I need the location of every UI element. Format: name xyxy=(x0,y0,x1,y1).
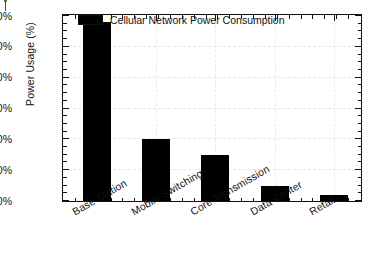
y-axis-minor-tick xyxy=(63,131,67,132)
x-axis-minor-tick xyxy=(75,198,76,202)
y-axis-minor-tick-right xyxy=(358,146,362,147)
y-axis-minor-tick xyxy=(63,146,67,147)
x-axis-minor-tick-top xyxy=(324,15,325,19)
x-axis-tick-top xyxy=(334,15,335,21)
y-axis-tick-label: 0% xyxy=(0,195,12,207)
x-axis-minor-tick xyxy=(289,198,290,202)
x-axis-minor-tick-top xyxy=(75,15,76,19)
y-axis-tick-label: 30% xyxy=(0,102,12,114)
y-axis-minor-tick-right xyxy=(358,30,362,31)
gridline-vertical xyxy=(334,15,335,201)
y-axis-minor-tick xyxy=(63,61,67,62)
gridline-vertical xyxy=(275,15,276,201)
y-axis-tick-right xyxy=(355,138,361,139)
y-axis-tick-right xyxy=(355,169,361,170)
legend-swatch-icon xyxy=(78,15,103,25)
y-axis-minor-tick-right xyxy=(358,92,362,93)
x-axis-minor-tick-top xyxy=(301,15,302,19)
chart-legend: Cellular Network Power Consumption xyxy=(78,14,285,26)
x-axis-minor-tick-top xyxy=(336,15,337,19)
y-axis-tick-label: 10% xyxy=(0,164,12,176)
y-axis-tick xyxy=(63,169,69,170)
y-axis-minor-tick-right xyxy=(358,177,362,178)
x-axis-minor-tick xyxy=(194,198,195,202)
y-axis-tick-right xyxy=(355,46,361,47)
y-axis-title: Power Usage (%) xyxy=(24,0,36,139)
y-axis-minor-tick xyxy=(63,123,67,124)
bar xyxy=(83,22,111,201)
y-axis-tick-label: 60% xyxy=(0,10,12,22)
x-axis-minor-tick xyxy=(170,198,171,202)
y-axis-tick-right xyxy=(355,15,361,16)
x-axis-minor-tick-top xyxy=(348,15,349,19)
y-axis-minor-tick xyxy=(63,84,67,85)
x-axis-minor-tick-top xyxy=(312,15,313,19)
y-axis-tick-label: 20% xyxy=(0,133,12,145)
y-axis-tick xyxy=(63,77,69,78)
x-axis-minor-tick xyxy=(312,198,313,202)
plot-inner xyxy=(63,15,361,201)
y-axis-minor-tick-right xyxy=(358,69,362,70)
y-axis-tick xyxy=(63,108,69,109)
legend-label: Cellular Network Power Consumption xyxy=(110,14,285,26)
y-axis-tick-right xyxy=(355,77,361,78)
y-axis-minor-tick xyxy=(63,154,67,155)
x-axis-minor-tick xyxy=(336,198,337,202)
x-axis-minor-tick xyxy=(241,198,242,202)
y-axis-minor-tick-right xyxy=(358,161,362,162)
y-axis-minor-tick xyxy=(63,177,67,178)
y-axis-minor-tick xyxy=(63,30,67,31)
x-axis-minor-tick-top xyxy=(289,15,290,19)
x-axis-minor-tick xyxy=(253,198,254,202)
x-axis-minor-tick xyxy=(111,198,112,202)
y-axis-minor-tick xyxy=(63,115,67,116)
y-axis-tick xyxy=(63,200,69,201)
y-axis-tick xyxy=(63,138,69,139)
x-axis-minor-tick xyxy=(182,198,183,202)
y-axis-minor-tick-right xyxy=(358,100,362,101)
x-axis-minor-tick xyxy=(348,198,349,202)
y-axis-minor-tick-right xyxy=(358,123,362,124)
y-axis-minor-tick-right xyxy=(358,38,362,39)
y-axis-minor-tick-right xyxy=(358,185,362,186)
y-axis-tick-right xyxy=(355,200,361,201)
y-axis-minor-tick xyxy=(63,38,67,39)
y-axis-minor-tick xyxy=(63,185,67,186)
y-axis-minor-tick-right xyxy=(358,131,362,132)
y-axis-minor-tick-right xyxy=(358,54,362,55)
y-axis-minor-tick-right xyxy=(358,61,362,62)
y-axis-tick xyxy=(63,46,69,47)
x-axis-minor-tick xyxy=(134,198,135,202)
y-axis-minor-tick xyxy=(63,92,67,93)
y-axis-minor-tick xyxy=(63,23,67,24)
y-axis-minor-tick-right xyxy=(358,154,362,155)
x-axis-minor-tick xyxy=(122,198,123,202)
y-axis-minor-tick-right xyxy=(358,192,362,193)
plot-area xyxy=(62,14,362,202)
y-axis-minor-tick xyxy=(63,161,67,162)
y-axis-minor-tick xyxy=(63,192,67,193)
y-axis-minor-tick-right xyxy=(358,84,362,85)
y-axis-minor-tick xyxy=(63,54,67,55)
y-axis-tick-label: 40% xyxy=(0,71,12,83)
x-axis-minor-tick xyxy=(301,198,302,202)
y-axis-minor-tick-right xyxy=(358,23,362,24)
y-axis-tick-label: 50% xyxy=(0,40,12,52)
y-axis-minor-tick xyxy=(63,100,67,101)
y-axis-minor-tick xyxy=(63,69,67,70)
y-axis-tick xyxy=(63,15,69,16)
bar-chart-figure: Power Usage (%) 0%10%20%30%40%50%60% Bas… xyxy=(0,0,378,257)
y-axis-tick-right xyxy=(355,108,361,109)
y-axis-minor-tick-right xyxy=(358,115,362,116)
x-axis-minor-tick xyxy=(229,198,230,202)
